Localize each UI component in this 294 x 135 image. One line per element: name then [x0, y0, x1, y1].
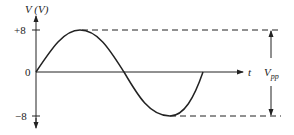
sine-curve	[36, 30, 203, 116]
x-axis-label: t	[248, 66, 252, 78]
vpp-label-sub: pp	[270, 72, 279, 81]
tick-label-zero: 0	[25, 66, 31, 78]
tick-label-neg8: −8	[15, 110, 27, 122]
y-axis-label: V (V)	[25, 3, 49, 16]
sine-wave-diagram: V (V) +8 0 −8 t Vpp	[0, 0, 294, 135]
tick-label-pos8: +8	[14, 24, 26, 36]
vpp-label: Vpp	[264, 66, 279, 81]
